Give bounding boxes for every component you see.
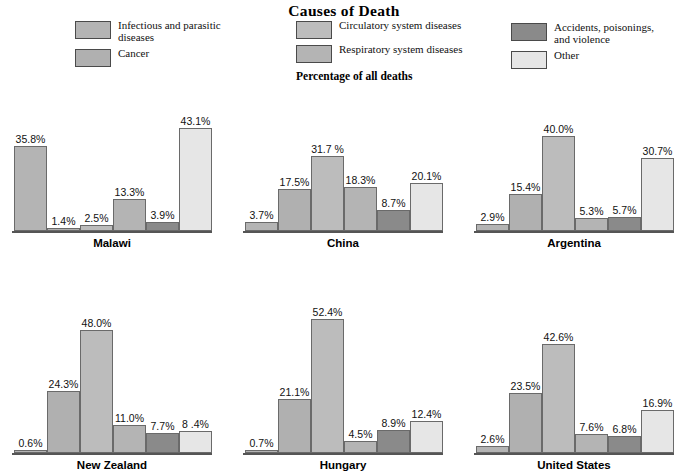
plot-area: 2.9%15.4%40.0%5.3%5.7%30.7% — [474, 88, 674, 233]
axis-baseline — [12, 453, 212, 455]
bar-other[interactable] — [410, 421, 443, 453]
bar-respiratory[interactable] — [575, 218, 608, 231]
legend-swatch-respiratory-icon — [296, 45, 332, 63]
legend-swatch-infectious-icon — [75, 21, 111, 39]
bar-cancer[interactable] — [509, 393, 542, 453]
bar-infectious[interactable] — [476, 224, 509, 231]
legend-item-accidents: Accidents, poisonings, and violence — [511, 22, 654, 45]
bar-cancer[interactable] — [47, 391, 80, 453]
bar-accidents[interactable] — [377, 430, 410, 453]
bar-cancer[interactable] — [278, 189, 311, 231]
legend-column-1: Infectious and parasitic diseases Cancer — [75, 20, 221, 67]
country-label: Hungary — [243, 459, 443, 471]
legend-label-accidents: Accidents, poisonings, and violence — [554, 22, 654, 45]
bar-other[interactable] — [641, 410, 674, 453]
bar-value-label: 12.4% — [402, 408, 451, 420]
bar-value-label: 52.4% — [303, 306, 352, 318]
axis-baseline — [12, 231, 212, 233]
legend-item-other: Other — [511, 50, 654, 69]
bar-infectious[interactable] — [245, 222, 278, 231]
axis-baseline — [243, 453, 443, 455]
legend-item-infectious: Infectious and parasitic diseases — [75, 20, 221, 43]
bar-other[interactable] — [179, 431, 212, 453]
country-label: New Zealand — [12, 459, 212, 471]
bar-accidents[interactable] — [608, 217, 641, 231]
bar-other[interactable] — [641, 158, 674, 231]
bar-value-label: 43.1% — [171, 115, 220, 127]
legend-swatch-other-icon — [511, 51, 547, 69]
bar-accidents[interactable] — [146, 433, 179, 453]
bar-value-label: 40.0% — [534, 123, 583, 135]
axis-baseline — [474, 231, 674, 233]
legend-label-other: Other — [554, 50, 579, 62]
bar-value-label: 18.3% — [336, 174, 385, 186]
country-label: China — [243, 237, 443, 249]
bar-value-label: 35.8% — [6, 133, 55, 145]
bar-other[interactable] — [179, 128, 212, 231]
plot-area: 2.6%23.5%42.6%7.6%6.8%16.9% — [474, 300, 674, 455]
bar-cancer[interactable] — [278, 399, 311, 453]
page-title: Causes of Death — [0, 2, 688, 20]
bar-value-label: 20.1% — [402, 170, 451, 182]
bar-circulatory[interactable] — [311, 156, 344, 232]
bar-circulatory[interactable] — [542, 344, 575, 453]
legend-label-cancer: Cancer — [118, 48, 149, 60]
axis-baseline — [474, 453, 674, 455]
country-label: United States — [474, 459, 674, 471]
panel-malawi: 35.8%1.4%2.5%13.3%3.9%43.1%Malawi — [12, 88, 212, 233]
bar-respiratory[interactable] — [575, 434, 608, 453]
legend-swatch-circulatory-icon — [296, 21, 332, 39]
bar-value-label: 42.6% — [534, 331, 583, 343]
legend-swatch-cancer-icon — [75, 49, 111, 67]
legend-column-3: Accidents, poisonings, and violence Othe… — [511, 22, 654, 69]
legend-swatch-accidents-icon — [511, 23, 547, 41]
legend-item-respiratory: Respiratory system diseases — [296, 44, 462, 63]
bar-value-label: 16.9% — [633, 397, 682, 409]
panel-china: 3.7%17.5%31.7 %18.3%8.7%20.1%China — [243, 88, 443, 233]
bar-circulatory[interactable] — [80, 330, 113, 453]
sub-caption: Percentage of all deaths — [296, 70, 412, 82]
bar-value-label: 8 .4% — [171, 418, 220, 430]
legend-item-circulatory: Circulatory system diseases — [296, 20, 462, 39]
plot-area: 35.8%1.4%2.5%13.3%3.9%43.1% — [12, 88, 212, 233]
bar-accidents[interactable] — [608, 436, 641, 453]
legend-item-cancer: Cancer — [75, 48, 221, 67]
bar-accidents[interactable] — [146, 222, 179, 231]
country-label: Argentina — [474, 237, 674, 249]
bar-infectious[interactable] — [476, 446, 509, 453]
legend-column-2: Circulatory system diseases Respiratory … — [296, 20, 462, 63]
legend-label-infectious: Infectious and parasitic diseases — [118, 20, 221, 43]
legend-label-respiratory: Respiratory system diseases — [339, 44, 462, 56]
plot-area: 3.7%17.5%31.7 %18.3%8.7%20.1% — [243, 88, 443, 233]
bar-other[interactable] — [410, 183, 443, 231]
panel-new-zealand: 0.6%24.3%48.0%11.0%7.7%8 .4%New Zealand — [12, 300, 212, 455]
bar-value-label: 31.7 % — [303, 143, 352, 155]
bar-accidents[interactable] — [377, 210, 410, 231]
bar-value-label: 13.3% — [105, 186, 154, 198]
plot-area: 0.6%24.3%48.0%11.0%7.7%8 .4% — [12, 300, 212, 455]
bar-value-label: 30.7% — [633, 145, 682, 157]
panel-argentina: 2.9%15.4%40.0%5.3%5.7%30.7%Argentina — [474, 88, 674, 233]
panel-united-states: 2.6%23.5%42.6%7.6%6.8%16.9%United States — [474, 300, 674, 455]
bar-cancer[interactable] — [509, 194, 542, 231]
bar-respiratory[interactable] — [344, 441, 377, 453]
plot-area: 0.7%21.1%52.4%4.5%8.9%12.4% — [243, 300, 443, 455]
panel-hungary: 0.7%21.1%52.4%4.5%8.9%12.4%Hungary — [243, 300, 443, 455]
axis-baseline — [243, 231, 443, 233]
bar-value-label: 48.0% — [72, 317, 121, 329]
legend-label-circulatory: Circulatory system diseases — [339, 20, 461, 32]
country-label: Malawi — [12, 237, 212, 249]
